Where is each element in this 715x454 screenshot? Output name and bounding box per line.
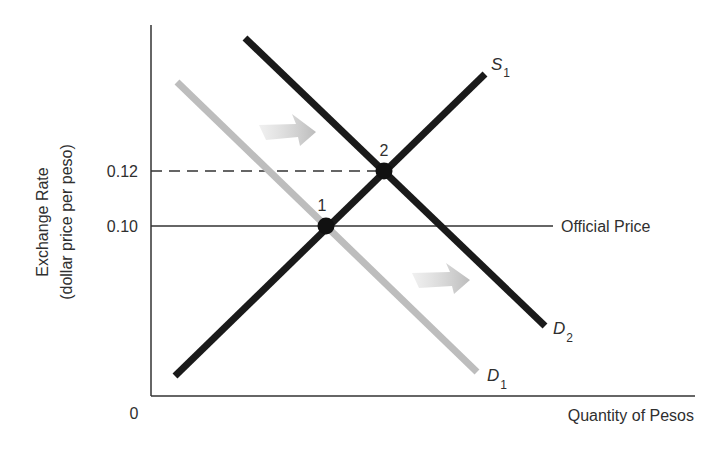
shift-arrow-upper — [259, 114, 316, 146]
y-axis-title-line1: Exchange Rate — [34, 167, 51, 277]
d2-label-sub: 2 — [566, 331, 573, 345]
point-2-label: 2 — [380, 142, 389, 159]
svg-text:S1: S1 — [491, 55, 510, 80]
d1-label: D1 — [487, 366, 507, 392]
equilibrium-point-2 — [376, 163, 393, 180]
demand-curve-d2 — [245, 38, 545, 326]
svg-text:D1: D1 — [487, 366, 507, 392]
svg-text:D2: D2 — [553, 319, 573, 345]
s1-label-main: S — [491, 55, 503, 74]
origin-label: 0 — [130, 405, 139, 422]
d2-label-main: D — [553, 319, 565, 338]
d1-label-sub: 1 — [500, 378, 507, 392]
shift-arrow-lower — [412, 263, 470, 294]
official-price-label: Official Price — [561, 218, 651, 235]
y-tick-label-010: 0.10 — [107, 218, 138, 235]
y-tick-label-012: 0.12 — [107, 163, 138, 180]
s1-label: S1 — [491, 55, 510, 80]
d2-label: D2 — [553, 319, 573, 345]
point-1-label: 1 — [318, 197, 327, 214]
equilibrium-point-1 — [318, 218, 335, 235]
arrow-right-icon — [412, 263, 470, 294]
y-axis-title: Exchange Rate (dollar price per peso) — [34, 144, 75, 300]
d1-label-main: D — [487, 366, 499, 385]
exchange-rate-chart: Exchange Rate (dollar price per peso) 0.… — [0, 0, 715, 454]
arrow-right-icon — [259, 114, 316, 146]
s1-label-sub: 1 — [503, 66, 510, 80]
y-axis-title-line2: (dollar price per peso) — [58, 144, 75, 300]
x-axis-title: Quantity of Pesos — [568, 407, 694, 424]
